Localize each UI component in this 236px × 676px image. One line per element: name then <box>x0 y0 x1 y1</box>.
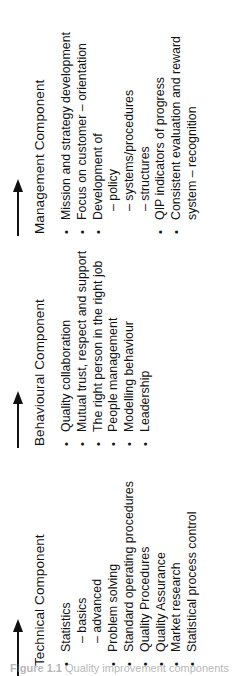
bullet-marker: • <box>138 432 154 446</box>
component-heading-technical: Technical Component <box>32 448 48 666</box>
list-item: • Mission and strategy development <box>59 4 75 234</box>
figure-caption-text: Quality improvement components <box>65 662 229 674</box>
arrow-head <box>13 619 23 632</box>
arrow-head <box>13 391 23 404</box>
list-item: • Statistics <box>59 448 75 666</box>
list-item: • Market research <box>169 448 185 666</box>
arrow-shaft <box>17 402 19 448</box>
list-item: • Problem solving <box>106 448 122 666</box>
arrow-shaft <box>17 190 19 236</box>
bullet-marker: • <box>75 432 91 446</box>
bullet-list-behavioural: • Quality collaboration • Mutual trust, … <box>59 236 154 446</box>
list-item: • Consistent evaluation and reward <box>169 4 185 234</box>
bullet-text: Statistics <box>59 602 75 652</box>
list-item: • QIP indicators of progress <box>153 4 169 234</box>
arrow-head <box>13 179 23 192</box>
bullet-marker: • <box>75 220 91 234</box>
bullet-text: – advanced <box>90 579 106 652</box>
bullet-text: – basics <box>75 598 91 652</box>
bullet-text: Statistical process control <box>185 512 201 652</box>
component-heading-behavioural: Behavioural Component <box>32 236 48 446</box>
list-item: • Quality Assurance <box>154 448 170 666</box>
quality-improvement-components-diagram: Technical Component • Statistics – basic… <box>0 0 236 676</box>
list-item: • Development of <box>91 4 107 234</box>
list-item: • Modelling behaviour <box>122 236 138 446</box>
bullet-marker: • <box>59 432 75 446</box>
bullet-marker: • <box>91 432 107 446</box>
bullet-text: Quality Procedures <box>138 547 154 652</box>
component-heading-management: Management Component <box>32 4 48 234</box>
list-item: – basics <box>75 448 91 666</box>
figure-caption-label: Figure 1.1 <box>10 662 62 674</box>
list-item: • Focus on customer – orientation <box>75 4 91 234</box>
bullet-text: Modelling behaviour <box>122 321 138 432</box>
list-item: – advanced <box>90 448 106 666</box>
bullet-text: Market research <box>169 562 185 652</box>
bullet-text: Quality Assurance <box>154 552 170 652</box>
bullet-marker: • <box>122 432 138 446</box>
component-block-behavioural: Behavioural Component • Quality collabor… <box>6 236 154 448</box>
list-item: • The right person in the right job <box>91 236 107 446</box>
bullet-text: – policy <box>106 169 122 220</box>
list-item: – structures <box>138 4 154 234</box>
bullet-list-management: • Mission and strategy development • Foc… <box>59 4 201 234</box>
bullet-text: People management <box>106 318 122 432</box>
bullet-text: – systems/procedures <box>122 90 138 220</box>
bullet-marker: • <box>106 432 122 446</box>
bullet-marker: • <box>153 220 169 234</box>
bullet-text: system – recognition <box>185 106 201 220</box>
list-item: – policy <box>106 4 122 234</box>
list-item: • People management <box>106 236 122 446</box>
list-item: • Statistical process control <box>185 448 201 666</box>
right-arrow-icon <box>12 388 24 448</box>
bullet-list-technical: • Statistics – basics – advanced • Probl… <box>59 448 201 666</box>
list-item: • Mutual trust, respect and support <box>75 236 91 446</box>
bullet-text: Standard operating procedures <box>122 481 138 652</box>
bullet-text: Mission and strategy development <box>59 32 75 220</box>
list-item: • Quality collaboration <box>59 236 75 446</box>
bullet-text: Consistent evaluation and reward <box>169 36 185 220</box>
list-item: • Leadership <box>138 236 154 446</box>
bullet-text: Mutual trust, respect and support <box>75 251 91 432</box>
component-block-management: Management Component • Mission and strat… <box>6 4 201 236</box>
list-item: – systems/procedures <box>122 4 138 234</box>
bullet-marker: • <box>169 220 185 234</box>
bullet-text: – structures <box>138 146 154 220</box>
list-item: • Standard operating procedures <box>122 448 138 666</box>
rotation-stage: Technical Component • Statistics – basic… <box>0 0 236 676</box>
bullet-marker: • <box>59 220 75 234</box>
right-arrow-icon <box>12 176 24 236</box>
bullet-text: QIP indicators of progress <box>153 77 169 220</box>
figure-caption: Figure 1.1 Quality improvement component… <box>10 662 229 675</box>
component-block-technical: Technical Component • Statistics – basic… <box>6 448 201 676</box>
bullet-text: Quality collaboration <box>59 320 75 432</box>
bullet-text: Development of <box>91 133 107 220</box>
bullet-text: Leadership <box>138 371 154 432</box>
list-item: system – recognition <box>185 4 201 234</box>
bullet-text: The right person in the right job <box>91 260 107 432</box>
list-item: • Quality Procedures <box>138 448 154 666</box>
bullet-text: Problem solving <box>106 564 122 652</box>
bullet-text: Focus on customer – orientation <box>75 43 91 220</box>
bullet-marker: • <box>91 220 107 234</box>
